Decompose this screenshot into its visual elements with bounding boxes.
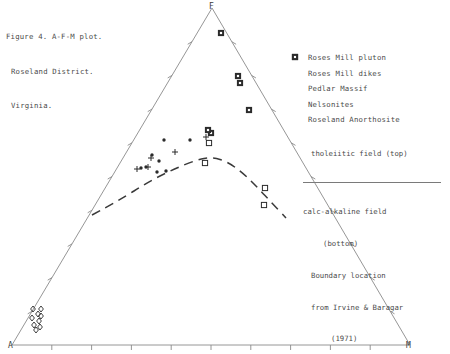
tholeiitic-field-label: tholeiitic field (top) <box>303 149 441 160</box>
legend-item: Nelsonites <box>288 97 400 113</box>
boundary-curve <box>92 158 286 218</box>
vertex-label-F: F <box>209 2 214 11</box>
legend-item-label: Roses Mill pluton <box>308 50 386 66</box>
legend-item: Roses Mill pluton <box>288 50 400 66</box>
legend-item-label: Nelsonites <box>308 97 354 113</box>
boundary-annotation: tholeiitic field (top) calc-alkaline fie… <box>303 128 441 354</box>
series-filled <box>205 30 252 136</box>
vertex-label-A: A <box>8 341 13 350</box>
legend-item-label: Roses Mill dikes <box>308 66 382 82</box>
afm-ternary-figure: Figure 4. A-F-M plot. Roseland District.… <box>0 0 450 354</box>
legend-item: Roses Mill dikes <box>288 66 400 82</box>
annotation-divider <box>303 182 441 183</box>
series-dot <box>139 138 191 173</box>
calc-alkaline-field-sublabel: (bottom) <box>303 239 441 250</box>
legend-item: Pedlar Massif <box>288 81 400 97</box>
source-line-3: (1971) <box>303 334 441 345</box>
source-line-2: from Irvine & Baragar <box>303 303 441 314</box>
calc-alkaline-field-label: calc-alkaline field <box>303 207 441 218</box>
legend: Roses Mill pluton Roses Mill dikes Pedla… <box>288 50 400 128</box>
series-diamond <box>30 306 44 333</box>
legend-item-label: Roseland Anorthosite <box>308 112 400 128</box>
source-line-1: Boundary location <box>303 271 441 282</box>
legend-item: Roseland Anorthosite <box>288 112 400 128</box>
legend-item-label: Pedlar Massif <box>308 81 368 97</box>
series-square <box>202 140 267 207</box>
